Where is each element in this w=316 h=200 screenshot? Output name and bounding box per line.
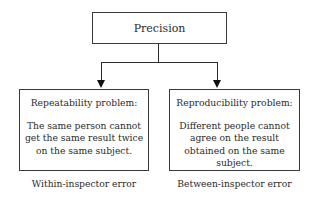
reproducibility-node: Reproducibility problem: Different peopl… — [169, 89, 300, 171]
within-inspector-caption: Within-inspector error — [19, 178, 149, 189]
reproducibility-title: Reproducibility problem: — [170, 97, 299, 110]
precision-label: Precision — [134, 22, 186, 35]
connector-left-drop — [101, 62, 102, 81]
arrow-down-icon — [97, 80, 105, 88]
connector-vertical-root — [158, 44, 159, 62]
reproducibility-description: Different people cannot agree on the res… — [170, 120, 299, 170]
connector-horizontal — [101, 62, 218, 63]
repeatability-title: Repeatability problem: — [20, 97, 148, 110]
repeatability-node: Repeatability problem: The same person c… — [19, 89, 149, 171]
connector-right-drop — [217, 62, 218, 81]
repeatability-description: The same person cannot get the same resu… — [20, 120, 148, 158]
arrow-down-icon — [213, 80, 221, 88]
precision-node: Precision — [92, 12, 227, 44]
between-inspector-caption: Between-inspector error — [169, 178, 300, 189]
